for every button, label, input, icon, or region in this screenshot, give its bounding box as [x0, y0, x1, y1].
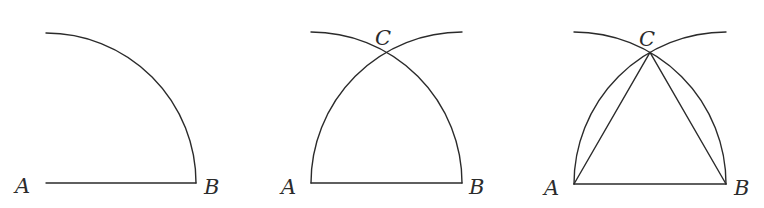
label-a: A: [13, 174, 30, 198]
panel-step-1: A B: [13, 33, 219, 199]
panel-step-3: A B C: [542, 27, 749, 200]
equilateral-triangle-construction: A B A B C A B C: [0, 0, 764, 208]
arc-centered-a: [311, 32, 462, 183]
label-c: C: [375, 26, 391, 50]
label-c: C: [639, 27, 655, 51]
arc-centered-b: [574, 32, 726, 184]
arc-centered-a: [46, 33, 196, 183]
label-b: B: [733, 176, 749, 200]
arc-centered-b: [311, 32, 462, 183]
arc-centered-a: [574, 32, 726, 184]
label-b: B: [203, 175, 219, 199]
segment-ac: [574, 52, 650, 184]
label-a: A: [542, 176, 559, 200]
panel-step-2: A B C: [279, 26, 484, 199]
label-a: A: [279, 175, 296, 199]
label-b: B: [468, 175, 484, 199]
segment-bc: [650, 52, 726, 184]
